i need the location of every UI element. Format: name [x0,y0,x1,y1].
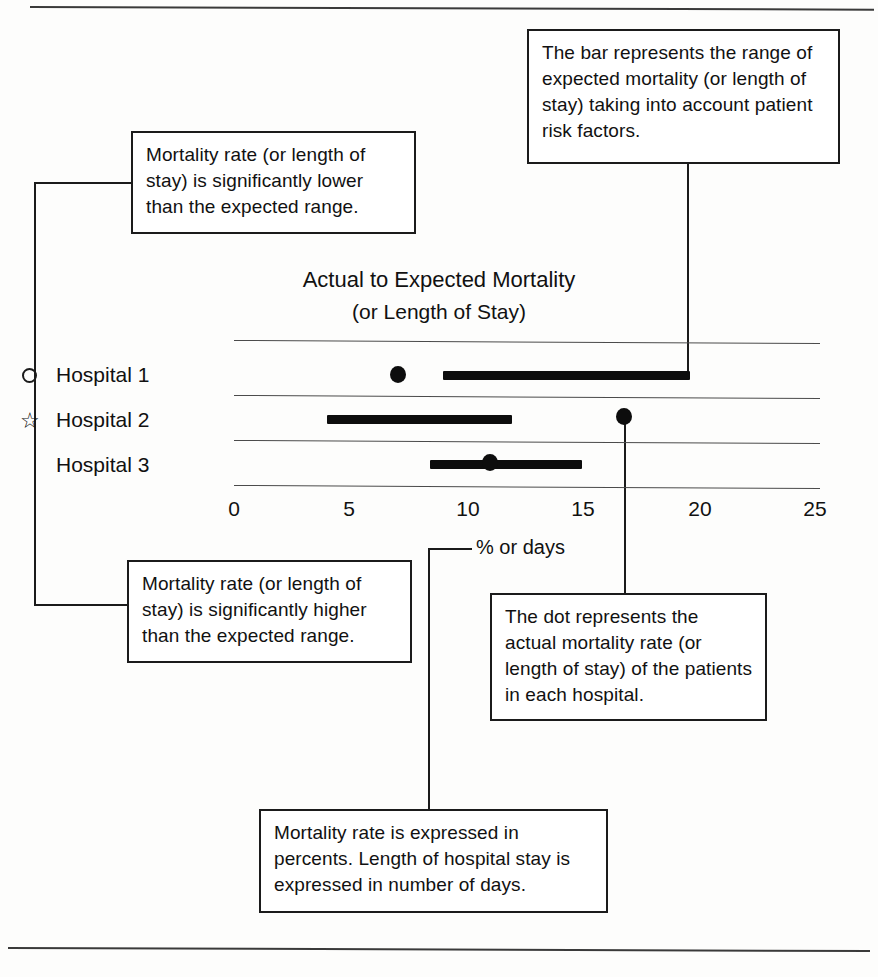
value-dot-hospital-1 [390,366,406,383]
grid-line [234,440,820,444]
x-tick-10: 10 [446,497,490,521]
grid-line [234,340,820,344]
row-label-hospital-3: Hospital 3 [56,453,149,477]
range-bar-hospital-1 [443,371,690,380]
callout-significantly-lower-text: Mortality rate (or length of stay) is si… [146,142,402,220]
value-dot-hospital-3 [482,454,498,471]
leader-line-left-spine [34,182,36,606]
leader-line-bar-range [687,164,689,376]
page-rule-bottom [8,947,870,952]
range-bar-hospital-3 [430,460,582,469]
leader-line-lower-horizontal [34,182,132,184]
leader-line-dot-actual [624,418,626,594]
x-tick-0: 0 [212,497,256,521]
x-axis-label: % or days [476,536,565,559]
callout-dot-actual: The dot represents the actual mortality … [490,593,767,721]
callout-units: Mortality rate is expressed in percents.… [259,809,608,913]
row-label-hospital-1: Hospital 1 [56,363,149,387]
leader-line-higher-horizontal [34,604,128,606]
callout-bar-range-text: The bar represents the range of expected… [542,40,826,144]
leader-line-units-horizontal [428,548,472,550]
x-tick-15: 15 [561,497,605,521]
chart-subtitle: (or Length of Stay) [0,300,878,324]
callout-bar-range: The bar represents the range of expected… [527,29,840,164]
x-tick-20: 20 [678,497,722,521]
x-tick-5: 5 [327,497,371,521]
row-label-hospital-2: Hospital 2 [56,408,149,432]
callout-significantly-higher-text: Mortality rate (or length of stay) is si… [142,571,398,649]
page-rule-top [30,6,874,11]
range-bar-hospital-2 [327,415,512,424]
callout-significantly-higher: Mortality rate (or length of stay) is si… [127,560,412,663]
chart-title: Actual to Expected Mortality [0,267,878,293]
star-marker-icon: ☆ [20,410,40,432]
page-canvas: The bar represents the range of expected… [0,0,878,977]
x-tick-25: 25 [793,497,837,521]
grid-line [234,485,820,489]
callout-significantly-lower: Mortality rate (or length of stay) is si… [131,131,416,234]
leader-line-units-vertical [428,548,430,810]
grid-line [234,395,820,399]
callout-units-text: Mortality rate is expressed in percents.… [274,820,594,898]
callout-dot-actual-text: The dot represents the actual mortality … [505,604,753,708]
